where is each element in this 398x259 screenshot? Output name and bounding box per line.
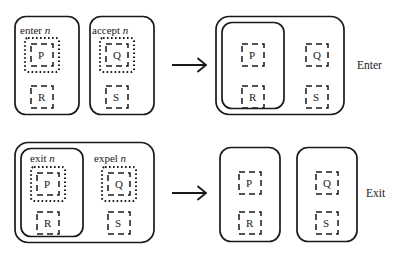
diagram-canvas: enter n accept n P R Q S P R Q S Enter e… xyxy=(0,0,398,259)
process-label-R: R xyxy=(246,218,253,229)
process-label-Q: Q xyxy=(313,50,321,61)
enter-rule-name: Enter xyxy=(357,60,382,72)
expel-name: n xyxy=(121,152,127,164)
enter-result-outer-membrane-outline xyxy=(216,17,344,115)
right-arrow-icon xyxy=(172,59,206,72)
expel-verb: expel xyxy=(94,152,118,164)
process-label-S: S xyxy=(113,92,119,103)
process-label-P: P xyxy=(38,50,44,61)
process-label-S: S xyxy=(115,218,121,229)
exit-verb: exit xyxy=(30,152,47,164)
process-label-P: P xyxy=(44,179,50,190)
process-label-Q: Q xyxy=(115,179,123,190)
process-label-P: P xyxy=(249,50,255,61)
expel-action-label: expel n xyxy=(94,153,126,164)
process-label-R: R xyxy=(249,92,256,103)
process-label-S: S xyxy=(323,218,329,229)
process-label-S: S xyxy=(313,92,319,103)
accept-action-label: accept n xyxy=(92,25,128,36)
accept-name: n xyxy=(123,24,129,36)
accept-verb: accept xyxy=(92,24,120,36)
right-arrow-icon xyxy=(172,187,206,200)
enter-verb: enter xyxy=(20,24,42,36)
process-label-Q: Q xyxy=(323,178,331,189)
diagram-vector-layer xyxy=(0,0,398,259)
process-label-P: P xyxy=(246,178,252,189)
process-label-Q: Q xyxy=(113,50,121,61)
exit-action-label: exit n xyxy=(30,153,55,164)
enter-action-label: enter n xyxy=(20,25,50,36)
exit-rule-name: Exit xyxy=(366,188,385,200)
process-label-R: R xyxy=(44,218,51,229)
process-label-R: R xyxy=(38,92,45,103)
enter-name: n xyxy=(45,24,51,36)
exit-name: n xyxy=(49,152,55,164)
